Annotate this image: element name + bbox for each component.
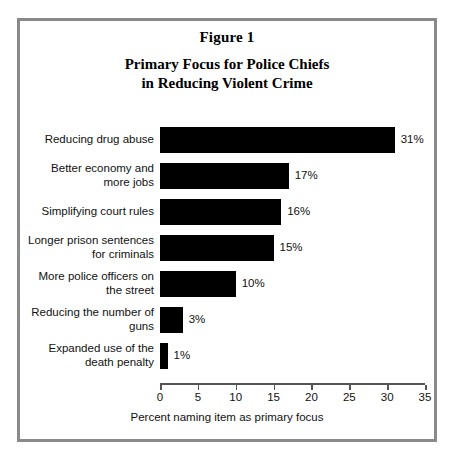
bar-value-label: 31%	[401, 133, 424, 145]
x-axis-tick-label: 15	[259, 391, 289, 403]
bar-value-label: 10%	[242, 277, 265, 289]
category-label: Expanded use of the death penalty	[26, 342, 154, 370]
category-label: Longer prison sentences for criminals	[26, 234, 154, 262]
bar-chart-plot: Percent naming item as primary focus 051…	[20, 21, 434, 439]
bar	[160, 307, 183, 333]
bar-value-label: 3%	[189, 313, 206, 325]
x-axis-tick	[274, 385, 276, 390]
category-label: Reducing drug abuse	[26, 133, 154, 147]
x-axis-tick-label: 0	[145, 391, 175, 403]
x-axis-title: Percent naming item as primary focus	[20, 411, 434, 423]
bar-value-label: 1%	[174, 349, 191, 361]
bar-value-label: 15%	[280, 241, 303, 253]
figure-border: Figure 1 Primary Focus for Police Chiefs…	[17, 18, 437, 442]
category-label: More police officers on the street	[26, 270, 154, 298]
x-axis-tick	[160, 385, 162, 390]
x-axis-tick-label: 10	[221, 391, 251, 403]
x-axis-tick	[236, 385, 238, 390]
x-axis-tick	[349, 385, 351, 390]
bar	[160, 199, 281, 225]
category-label: Better economy and more jobs	[26, 162, 154, 190]
category-label: Reducing the number of guns	[26, 306, 154, 334]
bar	[160, 235, 274, 261]
bar	[160, 271, 236, 297]
x-axis-tick	[198, 385, 200, 390]
x-axis-tick-label: 35	[410, 391, 440, 403]
x-axis-tick-label: 5	[183, 391, 213, 403]
x-axis-line	[160, 383, 425, 385]
category-label: Simplifying court rules	[26, 205, 154, 219]
bar	[160, 127, 395, 153]
x-axis-tick-label: 25	[334, 391, 364, 403]
x-axis-tick	[425, 385, 427, 390]
bar	[160, 343, 168, 369]
bar-value-label: 17%	[295, 169, 318, 181]
x-axis-tick	[387, 385, 389, 390]
x-axis-tick-label: 30	[372, 391, 402, 403]
bar	[160, 163, 289, 189]
x-axis-tick-label: 20	[296, 391, 326, 403]
bar-value-label: 16%	[287, 205, 310, 217]
x-axis-tick	[311, 385, 313, 390]
